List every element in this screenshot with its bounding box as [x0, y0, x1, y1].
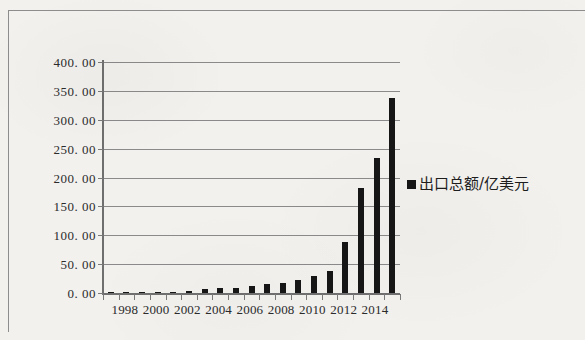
y-axis-tick-label: 300. 00	[54, 114, 97, 127]
x-axis-tick-label: 2010	[299, 303, 326, 316]
x-axis-tick-label: 2006	[237, 303, 264, 316]
bar-chart: 400. 00350. 00300. 00250. 00200. 00150. …	[0, 0, 585, 340]
x-axis-tick-label: 2004	[205, 303, 232, 316]
legend-square-icon	[407, 180, 416, 189]
y-axis-tick-label: 100. 00	[54, 229, 97, 242]
x-axis-tick-label: 2000	[143, 303, 170, 316]
x-axis-labels: 199820002002200420062008201020122014	[103, 0, 403, 340]
x-axis-tick-label: 2002	[174, 303, 201, 316]
y-axis-tick-label: 150. 00	[54, 200, 97, 213]
y-axis-tick-label: 400. 00	[54, 56, 97, 69]
legend-item-label: 出口总额/亿美元	[419, 177, 529, 192]
y-axis-tick-label: 200. 00	[54, 172, 97, 185]
x-axis-tick-label: 1998	[111, 303, 138, 316]
y-axis-tick-label: 0. 00	[68, 287, 97, 300]
x-axis-tick-label: 2012	[330, 303, 357, 316]
y-axis-tick-label: 50. 00	[61, 258, 97, 271]
y-axis-tick-label: 250. 00	[54, 143, 97, 156]
x-axis-tick-label: 2008	[268, 303, 295, 316]
y-axis-labels: 400. 00350. 00300. 00250. 00200. 00150. …	[18, 62, 96, 293]
x-axis-tick-label: 2014	[362, 303, 389, 316]
chart-legend: 出口总额/亿美元	[407, 177, 529, 192]
y-axis-tick-label: 350. 00	[54, 85, 97, 98]
